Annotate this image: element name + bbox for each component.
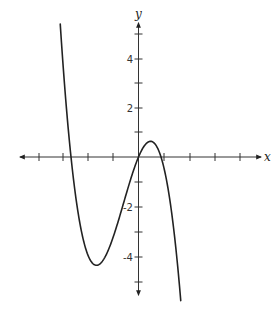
cubic-curve: [60, 24, 181, 300]
y-tick-label-4: 4: [127, 54, 133, 65]
y-tick-label-neg2: -2: [123, 202, 133, 213]
x-axis-label: x: [264, 150, 271, 164]
y-tick-label-neg4: -4: [123, 252, 133, 263]
y-tick-label-2: 2: [127, 103, 133, 114]
y-axis-label: y: [134, 7, 142, 21]
cubic-graph: 4 2 -2 -4 x y: [0, 0, 275, 309]
